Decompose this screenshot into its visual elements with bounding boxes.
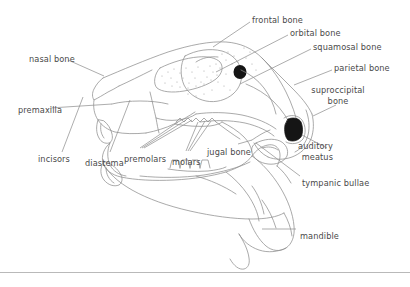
leader-incisors xyxy=(62,97,83,152)
figure-canvas: frontal bone orbital bone squamosal bone… xyxy=(0,0,410,287)
mandible-ramus-anterior xyxy=(226,172,259,221)
mandible-ramus-posterior xyxy=(249,156,294,250)
nasal-cavity-outline xyxy=(155,57,222,92)
mandible-detail-4 xyxy=(284,213,292,236)
label-premaxilla: premaxilla xyxy=(18,105,62,115)
label-orbital-bone: orbital bone xyxy=(290,28,341,38)
nasal-bone-shape xyxy=(93,78,120,100)
label-frontal-bone: frontal bone xyxy=(252,15,303,25)
label-squamosal-bone: squamosal bone xyxy=(313,42,382,52)
leader-frontal-bone xyxy=(213,22,250,47)
leader-premolars-b xyxy=(142,120,186,148)
nasal-suture-line xyxy=(119,70,152,86)
label-suproccipital-bone: suproccipital bone xyxy=(302,85,374,107)
label-diastema: diastema xyxy=(85,158,124,168)
bottom-divider xyxy=(0,272,410,273)
upper-cheek-teeth xyxy=(176,118,216,122)
lower-tooth-row-line xyxy=(168,167,226,171)
leader-diastema xyxy=(110,100,130,152)
leader-orbital-bone xyxy=(216,35,288,72)
label-jugal-bone: jugal bone xyxy=(207,147,251,157)
leader-jugal-bone xyxy=(238,140,252,144)
leader-premolars-a xyxy=(140,122,178,148)
mandible-detail-1 xyxy=(196,176,236,194)
auditory-meatus-opening xyxy=(285,118,303,141)
label-auditory-meatus: auditory meatus xyxy=(265,141,333,163)
label-mandible: mandible xyxy=(300,231,339,241)
label-premolars: premolars xyxy=(124,154,166,164)
label-tympanic-bullae: tympanic bullae xyxy=(302,178,369,188)
condylar-process xyxy=(277,166,291,183)
cranium-dorsal-profile xyxy=(103,42,312,114)
leader-parietal-bone xyxy=(294,70,332,85)
premaxilla-suture xyxy=(112,101,168,104)
label-incisors: incisors xyxy=(38,154,70,164)
upper-incisor xyxy=(97,120,113,143)
leader-premolars-c xyxy=(144,120,192,148)
label-parietal-bone: parietal bone xyxy=(334,63,390,73)
mandible-fragment xyxy=(230,234,249,269)
zygomatic-plate xyxy=(150,92,159,133)
label-nasal-bone: nasal bone xyxy=(29,54,75,64)
label-molars: molars xyxy=(172,157,201,167)
anterior-orbital-rim xyxy=(196,57,218,62)
braincase-lateral-wall xyxy=(241,70,276,114)
premaxilla-shape xyxy=(94,100,146,134)
